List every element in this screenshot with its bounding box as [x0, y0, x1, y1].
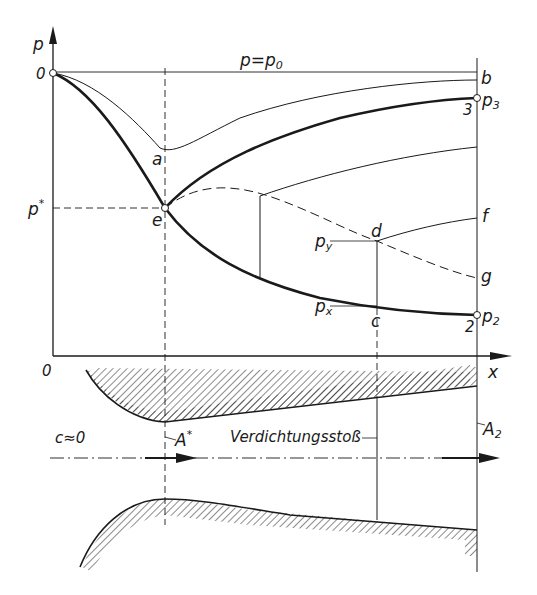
nozzle-pressure-diagram: p x 0 0 p=p0 p* [0, 0, 537, 595]
subsonic-recovery-curve-d-f [377, 218, 477, 241]
stagnation-pressure-label: p=p0 [239, 50, 283, 72]
lower-wall-hatch [82, 499, 477, 572]
point-e-marker [162, 205, 169, 212]
throat-area-label: A* [174, 428, 193, 450]
point-d-label: d [371, 221, 382, 241]
y-axis-label: p [32, 34, 44, 54]
point-3-marker [474, 95, 481, 102]
isentropic-curve-0-e [53, 73, 165, 208]
x-axis-arrow-icon [490, 352, 512, 360]
subsonic-curve-0-a-b [53, 73, 477, 150]
shock-label: Verdichtungsstoß [230, 428, 361, 446]
point-b-label: b [481, 68, 492, 88]
y-axis-arrow-icon [49, 26, 57, 44]
flow-arrow-2-icon [479, 453, 500, 463]
point-0-marker [50, 70, 57, 77]
pressure-plot: p x 0 0 p=p0 p* [27, 26, 512, 572]
point-2-marker [474, 312, 481, 319]
flow-arrow-1-icon [176, 453, 197, 463]
x-axis-label: x [487, 362, 499, 382]
point-3-index: 3 [463, 101, 473, 119]
inlet-velocity-label: c≈0 [55, 429, 85, 447]
origin-label: 0 [42, 362, 52, 380]
point-c-label: c [371, 311, 381, 331]
point-2-index: 2 [465, 318, 475, 336]
point-g-label: g [481, 266, 492, 286]
subsonic-recovery-curve-upper [260, 147, 477, 196]
critical-pressure-label: p* [27, 197, 45, 219]
nozzle-sketch: c≈0 A* Verdichtungsstoß A2 [50, 365, 502, 572]
py-label: py [314, 231, 333, 253]
p3-label: p3 [481, 90, 500, 112]
point-f-label: f [482, 206, 491, 226]
p2-label: p2 [481, 306, 500, 328]
point-a-label: a [152, 149, 162, 169]
start-point-label: 0 [36, 65, 46, 83]
exit-area-label: A2 [482, 419, 502, 441]
point-e-label: e [152, 210, 162, 230]
